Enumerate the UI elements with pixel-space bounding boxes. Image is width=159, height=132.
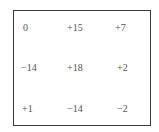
grid-cell-r1-c1: 0 — [23, 22, 28, 34]
grid-cell-r2-c3: +2 — [117, 62, 128, 74]
number-grid: 0 +15 +7 −14 +18 +2 +1 −14 −2 — [13, 10, 151, 126]
grid-cell-r2-c1: −14 — [21, 62, 37, 74]
grid-cell-r2-c2: +18 — [67, 62, 83, 74]
grid-cell-r3-c1: +1 — [22, 103, 33, 115]
grid-cell-r1-c2: +15 — [67, 22, 83, 34]
grid-cell-r1-c3: +7 — [115, 22, 126, 34]
grid-cell-r3-c3: −2 — [117, 103, 128, 115]
grid-cell-r3-c2: −14 — [67, 103, 83, 115]
